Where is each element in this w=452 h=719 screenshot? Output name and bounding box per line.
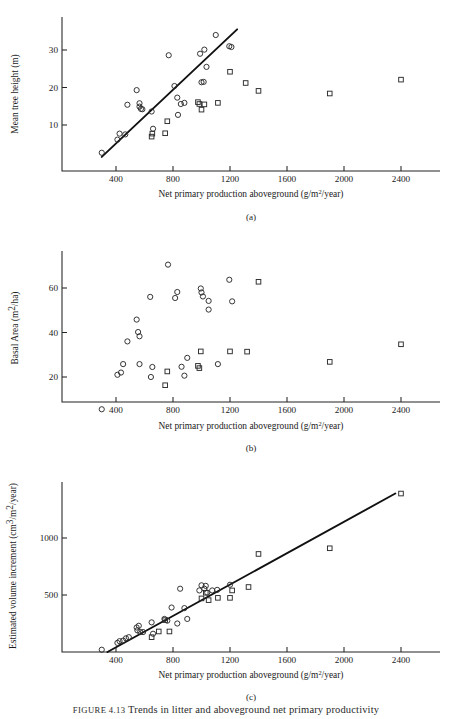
x-tick-label: 800: [166, 405, 180, 415]
data-point-square: [327, 91, 332, 96]
data-point-square: [216, 596, 221, 601]
data-point-square: [202, 102, 207, 107]
data-point-circle: [148, 294, 153, 299]
data-point-square: [199, 107, 204, 112]
x-axis-ticks-a: 4008001200160020002400: [109, 166, 410, 184]
data-point-circle: [178, 101, 183, 106]
x-axis-ticks-c: 4008001200160020002400: [109, 647, 410, 665]
regression-line: [102, 29, 237, 157]
data-point-circle: [215, 361, 220, 366]
y-tick-label: 40: [49, 328, 59, 338]
regression-line: [107, 494, 395, 652]
plot-a-axes: [62, 17, 440, 171]
chart-panel-c: 5001000 4008001200160020002400 Estimated…: [0, 470, 452, 719]
data-point-square: [327, 360, 332, 365]
data-point-square: [230, 588, 235, 593]
data-point-square: [399, 342, 404, 347]
figure-caption: FIGURE 4.13 Trends in litter and abovegr…: [0, 704, 452, 715]
x-tick-label: 2000: [335, 405, 354, 415]
data-point-circle: [137, 361, 142, 366]
scatter-plot-a: 102030 4008001200160020002400 Mean tree …: [0, 0, 452, 240]
data-point-circle: [99, 407, 104, 412]
x-axis-title-a: Net primary production aboveground (g/m2…: [159, 188, 344, 200]
data-point-circle: [205, 590, 210, 595]
data-point-circle: [150, 364, 155, 369]
data-point-circle: [182, 100, 187, 105]
data-point-circle: [197, 588, 202, 593]
data-point-square: [167, 629, 172, 634]
x-tick-label: 400: [109, 174, 123, 184]
data-point-circle: [206, 298, 211, 303]
data-point-circle: [150, 631, 155, 636]
data-points-b: [99, 262, 403, 412]
data-point-circle: [202, 47, 207, 52]
y-tick-label: 10: [49, 120, 59, 130]
x-tick-label: 400: [109, 655, 123, 665]
x-tick-label: 1600: [278, 655, 297, 665]
data-point-square: [327, 546, 332, 551]
y-tick-label: 60: [49, 283, 59, 293]
x-tick-label: 1200: [221, 655, 240, 665]
data-point-square: [399, 491, 404, 496]
x-tick-label: 400: [109, 405, 123, 415]
axis-lines-c: [62, 482, 440, 652]
data-point-circle: [185, 355, 190, 360]
x-axis-title-c: Net primary production aboveground (g/m2…: [159, 669, 344, 681]
trend-line-a: [102, 29, 237, 157]
x-tick-label: 1200: [221, 174, 240, 184]
data-point-circle: [148, 374, 153, 379]
y-axis-ticks-b: 204060: [49, 283, 67, 382]
data-point-square: [256, 89, 261, 94]
data-point-square: [198, 349, 203, 354]
figure-caption-band: FIGURE 4.13 Trends in litter and abovegr…: [0, 704, 452, 719]
data-point-circle: [99, 150, 104, 155]
plot-c-axes: [62, 482, 440, 652]
figure-caption-rest: Trends in litter and aboveground net pri…: [128, 704, 379, 715]
y-tick-label: 20: [49, 83, 59, 93]
x-tick-label: 2400: [392, 405, 411, 415]
figure-page: 102030 4008001200160020002400 Mean tree …: [0, 0, 452, 719]
data-point-circle: [182, 373, 187, 378]
data-point-circle: [150, 126, 155, 131]
x-tick-label: 1200: [221, 405, 240, 415]
y-axis-title-b: Basal Area (m2/ha): [7, 292, 21, 365]
data-point-circle: [169, 605, 174, 610]
plot-b-axes: [62, 251, 440, 402]
panel-letter-b: (b): [246, 443, 257, 453]
data-point-square: [165, 369, 170, 374]
y-axis-title-a: Mean tree height (m): [10, 54, 21, 133]
data-point-circle: [178, 586, 183, 591]
data-point-circle: [175, 289, 180, 294]
y-axis-ticks-c: 5001000: [40, 533, 67, 600]
data-point-circle: [227, 277, 232, 282]
y-axis-title-c: Estimated volume increment (cm3/m2/year): [5, 483, 19, 649]
y-tick-label: 30: [49, 45, 59, 55]
data-point-square: [245, 349, 250, 354]
data-point-circle: [165, 262, 170, 267]
x-tick-label: 1600: [278, 174, 297, 184]
data-point-circle: [230, 299, 235, 304]
trend-line-c: [107, 494, 395, 652]
data-point-square: [256, 279, 261, 284]
data-point-circle: [125, 339, 130, 344]
panel-letter-c: (c): [246, 692, 256, 702]
x-tick-label: 1600: [278, 405, 297, 415]
data-point-circle: [175, 621, 180, 626]
figure-caption-prefix: FIGURE 4.13: [73, 705, 126, 715]
x-tick-label: 800: [166, 174, 180, 184]
data-point-circle: [134, 317, 139, 322]
data-point-circle: [166, 53, 171, 58]
chart-panel-b: 204060 4008001200160020002400 Basal Area…: [0, 240, 452, 470]
x-tick-label: 2400: [392, 174, 411, 184]
data-point-circle: [197, 51, 202, 56]
data-point-circle: [206, 307, 211, 312]
data-point-circle: [210, 588, 215, 593]
data-point-circle: [149, 620, 154, 625]
data-point-circle: [204, 64, 209, 69]
y-tick-label: 20: [49, 372, 59, 382]
data-point-square: [206, 598, 211, 603]
x-axis-title-b: Net primary production aboveground (g/m2…: [159, 420, 344, 432]
data-point-circle: [175, 95, 180, 100]
data-point-square: [246, 585, 251, 590]
data-point-square: [156, 629, 161, 634]
